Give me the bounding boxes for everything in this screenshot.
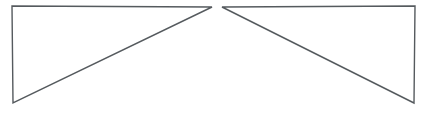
canvas-background	[0, 0, 444, 120]
figure-canvas	[0, 0, 444, 120]
figure-svg	[0, 0, 444, 120]
